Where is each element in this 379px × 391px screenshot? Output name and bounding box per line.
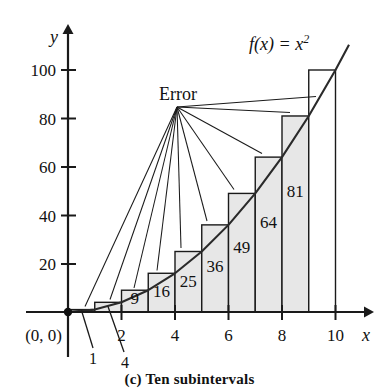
error-leader-line xyxy=(177,107,207,221)
y-tick-label: 60 xyxy=(39,158,56,177)
y-axis-label: y xyxy=(48,27,58,47)
bar-leader-label-4: 4 xyxy=(121,354,129,371)
bar-value-label: 64 xyxy=(260,213,278,232)
error-leader-line xyxy=(177,107,234,190)
x-tick-labels: 2 4 6 8 10 xyxy=(117,326,344,345)
bar-value-label: 16 xyxy=(153,282,170,301)
y-tick-label: 80 xyxy=(39,110,56,129)
error-leader-line xyxy=(157,107,177,271)
y-tick-label: 100 xyxy=(31,61,57,80)
x-tick-label: 2 xyxy=(117,326,126,345)
bar-value-label: 49 xyxy=(233,238,250,257)
x-tick-label: 6 xyxy=(224,326,233,345)
bar-rect xyxy=(309,70,336,312)
leader-line-bar-1 xyxy=(82,311,94,349)
origin-dot xyxy=(64,308,72,316)
x-axis-label: x xyxy=(361,325,370,345)
x-axis-arrowhead xyxy=(364,307,374,318)
figure-canvas: 100 80 60 40 20 2 4 6 8 10 9 16 25 36 49… xyxy=(0,0,379,391)
bar-value-label: 81 xyxy=(287,182,304,201)
bar-rect xyxy=(255,157,282,312)
y-tick-labels: 100 80 60 40 20 xyxy=(31,61,57,274)
origin-point-label: (0, 0) xyxy=(25,326,62,345)
x-tick-label: 4 xyxy=(171,326,180,345)
bar-rect xyxy=(282,116,309,312)
x-tick-label: 10 xyxy=(327,326,344,345)
error-leader-line xyxy=(177,107,290,113)
error-leader-line xyxy=(177,107,262,154)
function-label: f(x) = x2 xyxy=(249,32,309,55)
bar-leader-label-1: 1 xyxy=(89,350,97,367)
error-annotation-label: Error xyxy=(159,84,197,104)
function-label-exponent: 2 xyxy=(303,32,309,46)
riemann-sum-figure: 100 80 60 40 20 2 4 6 8 10 9 16 25 36 49… xyxy=(0,0,379,391)
bar-value-label: 36 xyxy=(207,257,224,276)
error-leader-line xyxy=(110,107,177,300)
function-label-text: f(x) = x xyxy=(249,34,303,55)
y-tick-label: 20 xyxy=(39,255,56,274)
x-tick-label: 8 xyxy=(278,326,287,345)
error-leader-line xyxy=(177,107,181,248)
error-leader-line xyxy=(134,107,177,288)
bar-value-label: 25 xyxy=(180,272,197,291)
bar-value-label: 9 xyxy=(131,289,140,308)
error-leader-line xyxy=(177,97,316,108)
y-axis-arrowhead xyxy=(63,24,74,34)
y-tick-label: 40 xyxy=(39,207,56,226)
figure-caption: (c) Ten subintervals xyxy=(0,371,379,388)
